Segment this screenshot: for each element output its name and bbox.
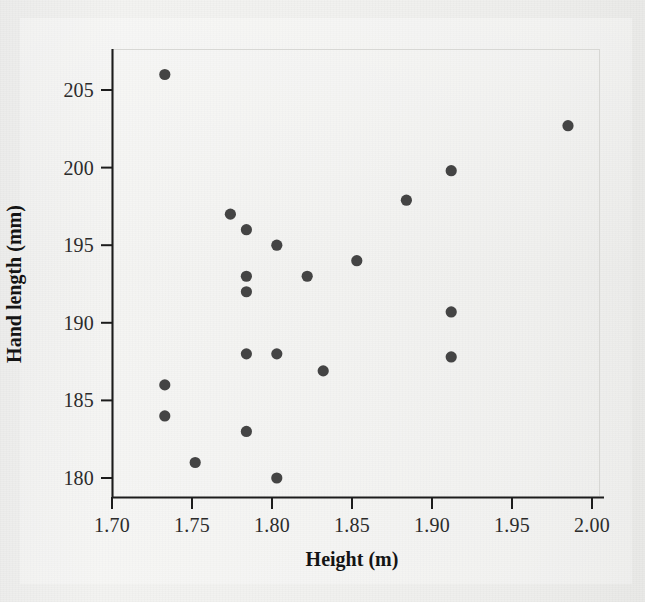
data-point	[562, 120, 573, 131]
x-tick-marks	[112, 497, 592, 509]
x-tick-label: 1.70	[94, 514, 130, 537]
x-tick-label: 1.75	[174, 514, 210, 537]
y-tick-label: 200	[40, 156, 94, 179]
axis-lines	[112, 49, 604, 498]
y-tick-marks	[101, 90, 112, 478]
data-point	[241, 224, 252, 235]
plot-canvas	[0, 0, 645, 602]
data-point	[159, 379, 170, 390]
data-point	[159, 410, 170, 421]
data-point	[302, 271, 313, 282]
data-point	[241, 271, 252, 282]
data-point	[271, 472, 282, 483]
y-tick-label: 190	[40, 311, 94, 334]
x-tick-label: 1.80	[254, 514, 290, 537]
data-point	[446, 165, 457, 176]
data-point	[271, 240, 282, 251]
data-point	[225, 209, 236, 220]
data-points-layer	[159, 69, 573, 484]
plot-frame-faint	[113, 50, 600, 497]
data-point	[241, 286, 252, 297]
y-tick-label: 205	[40, 79, 94, 102]
data-point	[159, 69, 170, 80]
data-point	[190, 457, 201, 468]
x-tick-label: 2.00	[574, 514, 610, 537]
data-point	[446, 351, 457, 362]
data-point	[241, 348, 252, 359]
scatter-plot-figure: 180185190195200205 1.701.751.801.851.901…	[0, 0, 645, 602]
x-tick-label: 1.85	[334, 514, 370, 537]
x-tick-label: 1.95	[494, 514, 530, 537]
data-point	[318, 365, 329, 376]
y-tick-label: 180	[40, 467, 94, 490]
y-axis-title: Hand length (mm)	[3, 205, 26, 363]
y-tick-label: 195	[40, 234, 94, 257]
data-point	[241, 426, 252, 437]
x-axis-title: Height (m)	[306, 548, 399, 571]
data-point	[351, 255, 362, 266]
data-point	[271, 348, 282, 359]
y-tick-label: 185	[40, 389, 94, 412]
data-point	[401, 195, 412, 206]
data-point	[446, 306, 457, 317]
x-tick-label: 1.90	[414, 514, 450, 537]
